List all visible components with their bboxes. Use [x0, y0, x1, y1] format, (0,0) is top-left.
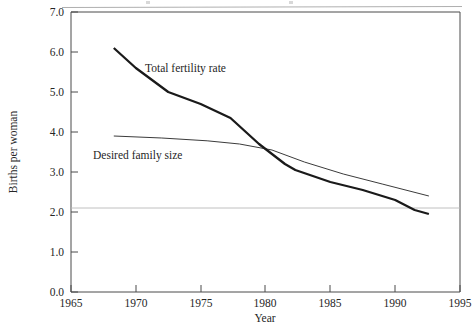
- y-tick-label: 6.0: [50, 46, 65, 58]
- x-tick-label: 1975: [190, 297, 213, 309]
- fertility-chart: 0.0 1.0 2.0 3.0 4.0 5.0 6.0 7.0 Births p…: [0, 0, 476, 328]
- x-tick-label: 1980: [254, 297, 277, 309]
- series-line-desired-family-size: [114, 136, 429, 196]
- series-annotation-total-fertility-rate: Total fertility rate: [145, 62, 226, 75]
- chart-svg: 0.0 1.0 2.0 3.0 4.0 5.0 6.0 7.0 Births p…: [0, 0, 476, 328]
- y-tick-label: 3.0: [50, 166, 65, 178]
- y-axis-tick-labels: 0.0 1.0 2.0 3.0 4.0 5.0 6.0 7.0: [50, 6, 65, 298]
- x-tick-label: 1970: [125, 297, 148, 309]
- x-axis-title: Year: [254, 312, 275, 324]
- y-tick-label: 1.0: [50, 246, 65, 258]
- series-annotation-desired-family-size: Desired family size: [93, 149, 182, 162]
- cropped-caption-artifact: [62, 1, 462, 8]
- y-tick-label: 2.0: [50, 206, 65, 218]
- x-tick-label: 1990: [384, 297, 407, 309]
- x-axis-tick-labels: 1965 1970 1975 1980 1985 1990 1995: [60, 297, 472, 309]
- y-tick-label: 4.0: [50, 126, 65, 138]
- x-axis-ticks: [71, 285, 460, 292]
- x-tick-label: 1985: [319, 297, 342, 309]
- x-tick-label: 1995: [449, 297, 472, 309]
- y-tick-label: 5.0: [50, 86, 65, 98]
- y-tick-label: 7.0: [50, 6, 65, 18]
- y-axis-title: Births per woman: [7, 111, 20, 194]
- y-axis-ticks: [71, 12, 78, 292]
- x-tick-label: 1965: [60, 297, 83, 309]
